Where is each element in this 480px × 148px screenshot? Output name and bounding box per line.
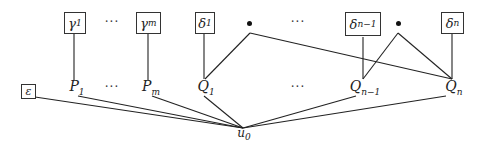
node-subscript: 1 — [76, 18, 82, 28]
edge-p1-u0 — [78, 96, 243, 128]
node-symbol: γ — [140, 16, 148, 31]
edge-qn1-u0 — [243, 96, 356, 128]
node-symbol: P — [69, 78, 78, 94]
node-delta-n-minus-1: δn−1 — [345, 12, 381, 36]
node-subscript: n — [457, 87, 463, 97]
node-subscript: 1 — [79, 87, 85, 97]
node-q-n-minus-1: Qn−1 — [350, 78, 381, 97]
node-u-0: u0 — [237, 126, 250, 142]
node-subscript: m — [151, 87, 160, 97]
node-symbol: u — [237, 126, 245, 140]
node-subscript: 1 — [206, 18, 212, 28]
node-q-n: Qn — [445, 78, 462, 97]
node-subscript: n — [454, 18, 460, 28]
edge-pm-u0 — [152, 96, 243, 128]
ellipsis-gamma: ··· — [105, 15, 119, 29]
node-delta-n: δn — [441, 12, 464, 34]
bullet-node-1 — [247, 21, 252, 26]
edge-bullet1-q1 — [205, 33, 250, 79]
ellipsis-q: ··· — [291, 80, 305, 94]
node-symbol: γ — [68, 16, 76, 31]
node-subscript: 0 — [245, 132, 251, 142]
node-gamma-1: γ1 — [64, 12, 86, 34]
node-symbol: ε — [26, 85, 32, 98]
node-subscript: m — [148, 18, 157, 28]
node-p-m: Pm — [142, 78, 160, 97]
node-q-1: Q1 — [197, 78, 214, 97]
edge-bullet2-qn — [398, 33, 452, 79]
node-symbol: Q — [350, 78, 361, 94]
node-delta-1: δ1 — [195, 12, 215, 34]
node-epsilon: ε — [21, 84, 36, 99]
node-symbol: P — [142, 78, 151, 94]
tree-diagram: γ1 ··· γm δ1 ··· δn−1 δn ε P1 ··· Pm Q1 … — [0, 0, 480, 148]
edge-epsilon-u0 — [35, 97, 243, 128]
edge-bullet1-qn — [250, 33, 452, 79]
ellipsis-delta: ··· — [291, 15, 305, 29]
node-p-1: P1 — [69, 78, 84, 97]
edge-bullet2-qn1 — [363, 33, 398, 79]
node-subscript: n−1 — [357, 19, 376, 29]
node-gamma-m: γm — [136, 12, 161, 34]
node-symbol: δ — [198, 16, 206, 31]
node-symbol: δ — [350, 17, 358, 32]
bullet-node-2 — [396, 21, 401, 26]
node-subscript: n−1 — [361, 87, 380, 97]
ellipsis-p: ··· — [105, 80, 119, 94]
node-subscript: 1 — [209, 87, 215, 97]
node-symbol: δ — [446, 16, 454, 31]
node-symbol: Q — [445, 78, 456, 94]
node-symbol: Q — [197, 78, 208, 94]
edge-qn-u0 — [243, 96, 446, 128]
